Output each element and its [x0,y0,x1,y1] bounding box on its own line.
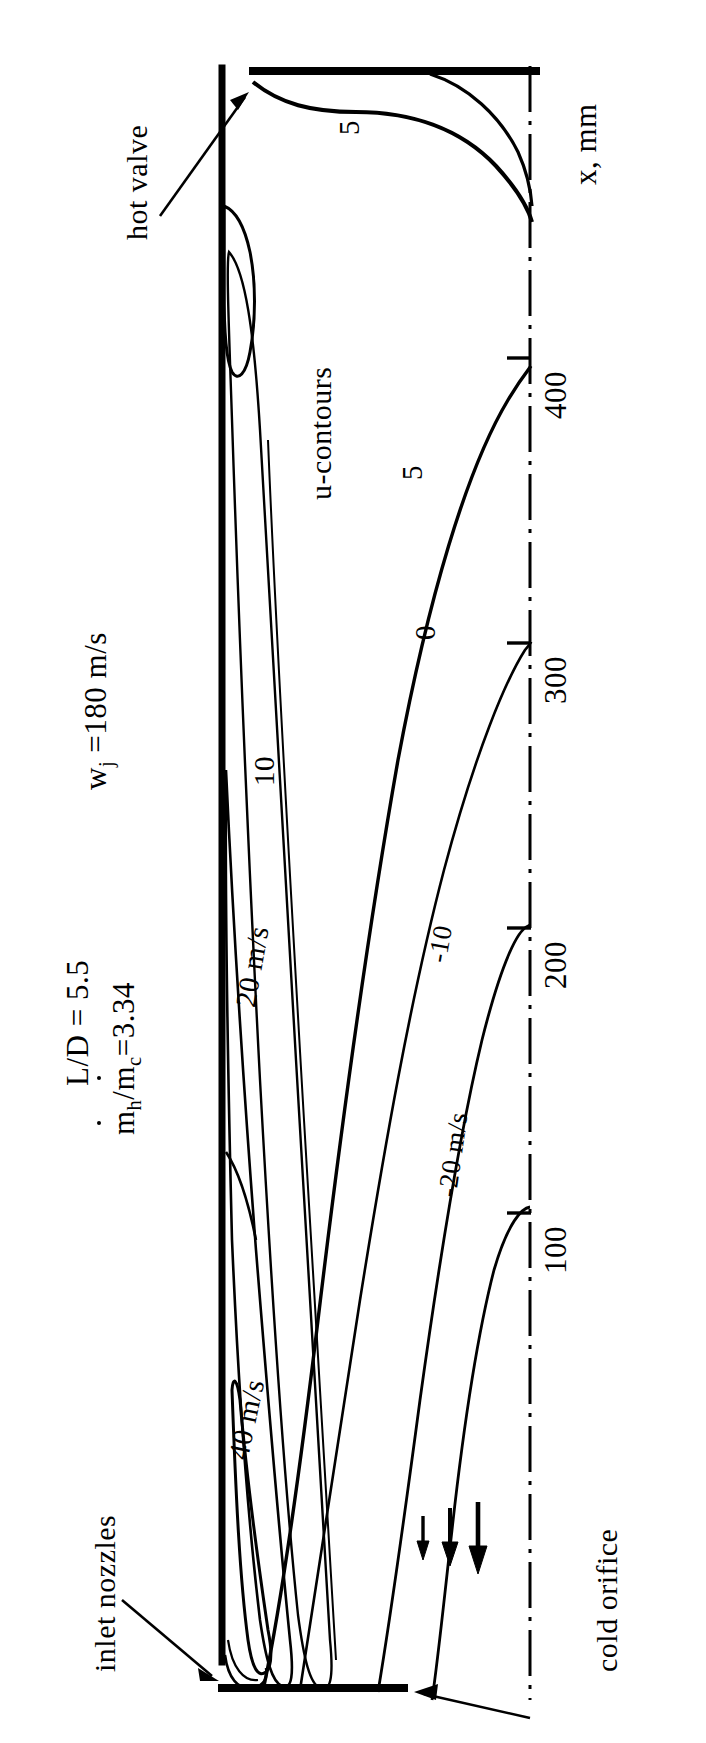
contour-label-5-mid: 5 [398,465,427,480]
flow-arrow-icon-3 [469,1502,487,1574]
annotation-u-contours: u-contours [306,367,336,500]
contour-label-10-wall: 10 [250,756,279,786]
flow-arrows-group [417,1502,487,1574]
mdot-c-subscript: c [123,1056,145,1066]
axis-tick-label-400: 400 [540,371,571,419]
hot-valve-arrowhead-icon [230,92,249,110]
mdot-h-symbol: m [106,1110,141,1135]
annotation-cold-orifice: cold orifice [592,1529,622,1672]
contour-curve-5-hotend [253,82,532,222]
contour-curve-neg10 [378,925,531,1692]
contour-curve-20 [226,770,292,1687]
contour-curve-10-inner [268,440,336,1660]
axis-tick-label-300: 300 [540,656,571,704]
cold-orifice-leader-line [424,1694,530,1718]
figure-root: L/D = 5.5 mh/mc=3.34 wj =180 m/s hot val… [0,0,706,1743]
param-mass-flow-ratio: mh/mc=3.34 [108,982,144,1135]
inlet-nozzles-leader-line [122,1600,212,1676]
hot-valve-leader-line [160,97,245,216]
axis-tick-label-100: 100 [540,1226,571,1274]
jet-velocity-value: =180 m/s [78,632,113,761]
hot-valve-leader [160,92,249,216]
axis-label-x: x, mm [570,103,601,185]
param-ld-ratio: L/D = 5.5 [62,960,93,1086]
contour-curve-5-branch [430,74,532,206]
inlet-nozzles-arrowhead-icon [198,1668,219,1681]
annotation-inlet-nozzles: inlet nozzles [90,1515,120,1672]
contour-label-neg10: -10 [424,923,457,965]
contour-curve-nozzle-corner-a [225,1655,266,1688]
mass-flow-ratio-value: =3.34 [106,982,141,1056]
contour-label-5-hotend: 5 [335,120,364,135]
wj-subscript: j [95,761,117,767]
axis-ticks [507,73,531,1213]
annotation-hot-valve: hot valve [122,125,152,240]
mdot-h-subscript: h [123,1100,145,1111]
contour-curve-5-mid [264,366,531,1686]
mdot-c-symbol: m [106,1066,141,1091]
contour-curve-0 [300,642,531,1690]
param-jet-velocity: wj =180 m/s [80,632,116,790]
cold-orifice-leader [414,1684,530,1718]
axis-tick-label-200: 200 [540,941,571,989]
contour-curve-neg20 [432,1207,530,1700]
cold-orifice-arrowhead-icon [414,1684,438,1700]
flow-arrow-icon-2 [442,1508,458,1566]
contour-label-0: 0 [411,625,440,640]
inlet-nozzles-leader [122,1600,219,1681]
flow-arrow-icon-1 [417,1516,429,1560]
contour-plot-canvas [0,0,706,1743]
